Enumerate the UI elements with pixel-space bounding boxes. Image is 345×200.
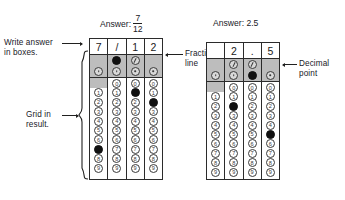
digit-bubble-8[interactable]: 8 [229,158,238,167]
decimal-point-bubble[interactable] [211,71,220,80]
decimal-bubble-cell-1[interactable] [207,70,224,81]
digit-bubble-1[interactable]: 1 [248,92,257,101]
decimal-point-bubble[interactable] [131,67,140,76]
digit-bubble-9[interactable]: 9 [266,168,275,177]
fraction-slash-bubble[interactable] [112,56,121,65]
digit-bubble-5[interactable]: 5 [112,126,121,135]
digit-bubble-2[interactable]: 2 [94,98,103,107]
digit-bubble-2[interactable]: 2 [149,98,158,107]
digit-bubble-6[interactable]: 6 [229,139,238,148]
digit-bubble-6[interactable]: 6 [211,139,220,148]
fraction-bubble-cell-4[interactable] [144,55,162,66]
digit-bubble-5[interactable]: 5 [94,126,103,135]
fraction-bubble-cell-3[interactable] [243,59,261,70]
digit-column-4[interactable]: 0123456789 [144,78,162,179]
digit-column-2[interactable]: 0123456789 [107,78,125,179]
digit-bubble-1[interactable]: 1 [112,88,121,97]
decimal-bubble-cell-3[interactable] [243,70,261,81]
digit-column-2[interactable]: 0123456789 [224,82,242,179]
fraction-slash-bubble[interactable] [229,60,238,69]
digit-bubble-4[interactable]: 4 [94,117,103,126]
written-answer-cell-3[interactable]: . [243,43,261,58]
digit-bubble-2[interactable]: 2 [131,98,140,107]
digit-bubble-3[interactable]: 3 [94,107,103,116]
digit-bubble-1[interactable]: 1 [211,92,220,101]
written-answer-cell-1[interactable]: 7 [90,39,107,54]
digit-bubble-4[interactable]: 4 [112,117,121,126]
digit-bubble-6[interactable]: 6 [149,135,158,144]
digit-bubble-2[interactable]: 2 [211,102,220,111]
digit-bubble-7[interactable]: 7 [149,145,158,154]
digit-bubble-5[interactable]: 5 [149,126,158,135]
digit-bubble-2[interactable]: 2 [112,98,121,107]
digit-bubble-6[interactable]: 6 [266,139,275,148]
digit-bubble-7[interactable]: 7 [248,149,257,158]
decimal-bubble-cell-3[interactable] [126,66,144,77]
digit-bubble-6[interactable]: 6 [94,135,103,144]
grid-fraction[interactable]: 7/12123456789012345678901234567890123456… [89,38,163,180]
digit-column-3[interactable]: 0123456789 [243,82,261,179]
digit-bubble-8[interactable]: 8 [266,158,275,167]
decimal-bubble-cell-2[interactable] [224,70,242,81]
digit-bubble-9[interactable]: 9 [229,168,238,177]
digit-bubble-9[interactable]: 9 [211,168,220,177]
digit-bubble-0[interactable]: 0 [131,79,140,88]
fraction-bubble-cell-3[interactable] [126,55,144,66]
digit-bubble-0[interactable]: 0 [112,79,121,88]
digit-bubble-3[interactable]: 3 [266,111,275,120]
digit-bubble-7[interactable]: 7 [229,149,238,158]
digit-bubble-8[interactable]: 8 [149,154,158,163]
digit-bubble-1[interactable]: 1 [266,92,275,101]
digit-bubble-6[interactable]: 6 [131,135,140,144]
digit-bubble-1[interactable]: 1 [94,88,103,97]
digit-bubble-2[interactable]: 2 [229,102,238,111]
digit-bubble-3[interactable]: 3 [112,107,121,116]
digit-bubble-7[interactable]: 7 [131,145,140,154]
grid-decimal[interactable]: 2.51234567890123456789012345678901234567… [206,42,280,180]
digit-bubble-7[interactable]: 7 [211,149,220,158]
digit-bubble-3[interactable]: 3 [248,111,257,120]
digit-bubble-0[interactable]: 0 [149,79,158,88]
digit-bubble-1[interactable]: 1 [131,88,140,97]
digit-bubble-4[interactable]: 4 [229,121,238,130]
written-answer-cell-4[interactable]: 5 [261,43,279,58]
digit-bubble-3[interactable]: 3 [211,111,220,120]
digit-bubble-7[interactable]: 7 [112,145,121,154]
digit-bubble-8[interactable]: 8 [211,158,220,167]
decimal-bubble-cell-4[interactable] [144,66,162,77]
written-answer-cell-1[interactable] [207,43,224,58]
digit-bubble-4[interactable]: 4 [211,121,220,130]
digit-bubble-8[interactable]: 8 [248,158,257,167]
decimal-bubble-cell-4[interactable] [261,70,279,81]
digit-bubble-4[interactable]: 4 [149,117,158,126]
digit-bubble-4[interactable]: 4 [266,121,275,130]
digit-bubble-2[interactable]: 2 [248,102,257,111]
digit-bubble-0[interactable]: 0 [248,83,257,92]
written-answer-cell-4[interactable]: 2 [144,39,162,54]
written-answer-cell-2[interactable]: 2 [224,43,242,58]
digit-bubble-6[interactable]: 6 [248,139,257,148]
digit-bubble-9[interactable]: 9 [149,164,158,173]
digit-bubble-7[interactable]: 7 [266,149,275,158]
digit-bubble-5[interactable]: 5 [266,130,275,139]
decimal-bubble-cell-2[interactable] [107,66,125,77]
digit-bubble-0[interactable]: 0 [229,83,238,92]
written-answer-cell-2[interactable]: / [107,39,125,54]
digit-bubble-5[interactable]: 5 [211,130,220,139]
decimal-point-bubble[interactable] [94,67,103,76]
digit-bubble-9[interactable]: 9 [94,164,103,173]
digit-bubble-3[interactable]: 3 [149,107,158,116]
decimal-point-bubble[interactable] [266,71,275,80]
digit-bubble-3[interactable]: 3 [229,111,238,120]
decimal-bubble-cell-1[interactable] [90,66,107,77]
digit-bubble-8[interactable]: 8 [131,154,140,163]
fraction-bubble-cell-1[interactable] [90,55,107,66]
digit-bubble-1[interactable]: 1 [229,92,238,101]
fraction-slash-bubble[interactable] [248,60,257,69]
digit-bubble-2[interactable]: 2 [266,102,275,111]
decimal-point-bubble[interactable] [112,67,121,76]
decimal-point-bubble[interactable] [149,67,158,76]
digit-column-1[interactable]: 123456789 [90,78,107,179]
fraction-bubble-cell-2[interactable] [224,59,242,70]
digit-bubble-4[interactable]: 4 [248,121,257,130]
